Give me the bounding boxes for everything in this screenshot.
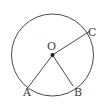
circle-diagram-svg bbox=[0, 0, 106, 108]
center-point-dot bbox=[51, 53, 55, 57]
radius-line-ob bbox=[53, 55, 74, 86]
point-label-a: A bbox=[23, 87, 31, 98]
point-label-o: O bbox=[47, 41, 56, 52]
point-label-c: C bbox=[88, 27, 96, 38]
radius-line-oa bbox=[28, 55, 53, 88]
geometry-figure: O A B C bbox=[0, 0, 106, 108]
point-label-b: B bbox=[74, 87, 82, 98]
radius-line-oc bbox=[53, 31, 91, 55]
